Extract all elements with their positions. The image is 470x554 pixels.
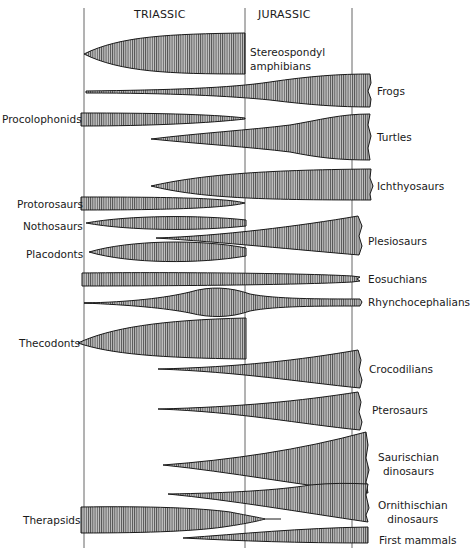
taxon-label-line: amphibians — [250, 59, 325, 73]
range-shape-frogs — [86, 74, 371, 107]
taxon-label-ornithischian: Ornithischiandinosaurs — [378, 498, 448, 526]
taxon-label-frogs: Frogs — [377, 84, 405, 98]
taxon-label-therapsids: Therapsids — [23, 513, 80, 527]
taxon-label-crocodilians: Crocodilians — [369, 362, 433, 376]
range-shape-placodonts — [89, 242, 246, 262]
taxon-label-line: Turtles — [377, 130, 412, 144]
range-shape-rhynchocephalians — [84, 288, 362, 316]
taxon-label-pterosaurs: Pterosaurs — [372, 403, 428, 417]
period-label-triassic: TRIASSIC — [134, 8, 186, 21]
taxon-label-saurischian: Saurischiandinosaurs — [378, 450, 439, 478]
range-shape-nothosaurs — [86, 217, 246, 230]
taxon-label-line: Frogs — [377, 84, 405, 98]
taxon-label-procolophonids: Procolophonids — [2, 112, 82, 126]
taxon-label-line: Ornithischian — [378, 498, 448, 512]
taxon-label-line: Stereospondyl — [250, 45, 325, 59]
taxon-label-line: Pterosaurs — [372, 403, 428, 417]
taxon-label-turtles: Turtles — [377, 130, 412, 144]
taxon-label-ichthyosaurs: Ichthyosaurs — [377, 179, 444, 193]
taxon-label-line: Thecodonts — [19, 336, 80, 350]
taxon-label-stereospondyl: Stereospondylamphibians — [250, 45, 325, 73]
period-label-jurassic: JURASSIC — [258, 8, 311, 21]
range-shape-ichthyosaurs — [151, 169, 373, 200]
taxon-label-line: Eosuchians — [368, 272, 427, 286]
taxon-label-plesiosaurs: Plesiosaurs — [368, 234, 427, 248]
taxon-label-line: Ichthyosaurs — [377, 179, 444, 193]
range-shape-stereospondyl — [84, 33, 245, 74]
range-shape-first-mammals — [183, 527, 368, 543]
taxon-label-line: Placodonts — [26, 247, 83, 261]
taxon-label-first-mammals: First mammals — [379, 533, 456, 547]
taxon-label-line: First mammals — [379, 533, 456, 547]
range-shape-thecodonts — [78, 318, 246, 359]
taxon-label-line: Crocodilians — [369, 362, 433, 376]
range-shape-therapsids — [81, 507, 265, 533]
range-shape-eosuchians — [82, 273, 360, 286]
taxon-ranges — [78, 33, 373, 543]
taxon-label-protorosaurs: Protorosaurs — [17, 197, 83, 211]
taxon-label-line: dinosaurs — [378, 464, 439, 478]
range-shape-procolophonids — [81, 113, 245, 126]
taxon-label-thecodonts: Thecodonts — [19, 336, 80, 350]
taxon-label-line: Procolophonids — [2, 112, 82, 126]
taxon-label-line: Saurischian — [378, 450, 439, 464]
taxon-label-eosuchians: Eosuchians — [368, 272, 427, 286]
taxon-label-line: Rhynchocephalians — [368, 295, 470, 309]
taxon-label-rhynchocephalians: Rhynchocephalians — [368, 295, 470, 309]
taxon-label-nothosaurs: Nothosaurs — [23, 219, 83, 233]
range-shape-protorosaurs — [81, 197, 245, 210]
taxon-label-placodonts: Placodonts — [26, 247, 83, 261]
taxon-label-line: Nothosaurs — [23, 219, 83, 233]
taxon-label-line: Plesiosaurs — [368, 234, 427, 248]
taxon-label-line: dinosaurs — [378, 512, 448, 526]
taxon-label-line: Therapsids — [23, 513, 80, 527]
range-shape-pterosaurs — [158, 392, 362, 430]
taxon-label-line: Protorosaurs — [17, 197, 83, 211]
